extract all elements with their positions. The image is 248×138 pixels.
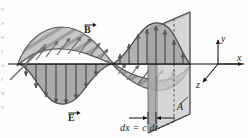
margin-text-line: s [1,102,4,112]
b-vector-arrow-icon [84,22,97,26]
axis-label-z: z [196,79,200,90]
b-field-label: B [84,22,97,35]
e-field-label: E [68,110,81,123]
margin-text-line: e [1,32,4,42]
axis-z-line [203,64,218,82]
em-wave-figure: B E y x z A dx = c dt s e e r a t n s [0,0,248,138]
margin-text-line: n [1,88,5,98]
margin-text-line: r [1,46,3,56]
margin-text-line: e [1,18,4,28]
axis-label-x: x [237,52,241,63]
margin-text-line: a [1,60,4,70]
area-label: A [177,101,183,112]
margin-text-line: s [1,4,4,14]
e-field-lobe-1 [17,64,112,104]
e-vector-arrow-icon [68,110,81,114]
axis-label-y: y [221,33,225,44]
dx-thickness-label: dx = c dt [120,122,158,133]
margin-text-line: t [1,74,3,84]
em-wave-diagram-canvas [0,0,248,138]
